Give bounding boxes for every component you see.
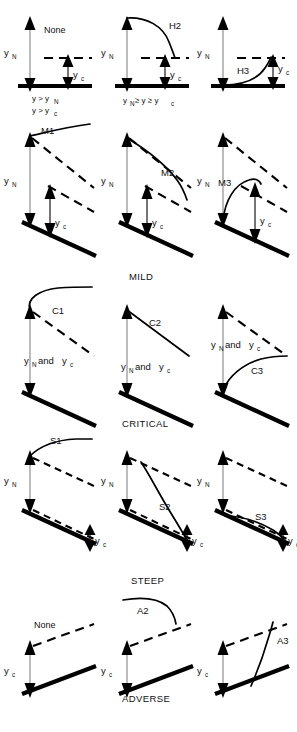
panel-c2: y N and y c C2 <box>97 282 197 414</box>
panel-h2: y N y c H2 y N ≥ y ≥ y c <box>97 0 197 122</box>
label-yc-sub-h2: c <box>178 75 181 82</box>
section-label-steep: STEEP <box>131 575 164 586</box>
label-yN-sub-s1: N <box>12 481 17 488</box>
section-label-adverse: ADVERSE <box>122 693 170 704</box>
panel-c1: y N and y c C1 <box>0 282 100 414</box>
label-yc-h3: y <box>278 63 283 74</box>
profile-label-s1: S1 <box>50 435 62 446</box>
label-yN-m1: y <box>4 175 9 186</box>
inequality-h2-sub2: c <box>171 100 174 107</box>
label-yc-sub-m3: c <box>268 221 271 228</box>
label-yc-sub-c1: c <box>70 361 73 368</box>
panel-m3: y N y c M3 <box>193 122 297 264</box>
label-yN-h2: y <box>101 47 106 58</box>
profile-label-c1: C1 <box>52 305 64 316</box>
profile-curve-a2 <box>123 598 176 624</box>
panel-s2: y N S2 y c <box>97 428 197 568</box>
label-yN-m3: y <box>197 175 202 186</box>
profile-label-s3: S3 <box>255 511 267 522</box>
label-yNc-sub1-c3: N <box>219 345 224 352</box>
panel-s1: y N S1 y c <box>0 428 100 568</box>
section-label-adverse-wrap: ADVERSE <box>122 690 196 710</box>
panel-a1: y c None <box>0 592 100 717</box>
label-yc-c3: y <box>249 339 254 350</box>
profile-label-c3: C3 <box>251 365 263 376</box>
panel-h3: y N y c H3 <box>193 0 297 122</box>
label-yc-sub-m2: c <box>160 223 163 230</box>
label-yN-sub-m1: N <box>12 181 17 188</box>
label-yNc-c2: y <box>121 361 126 372</box>
inequality-h1-line2-sub: c <box>54 110 57 117</box>
label-yN-h1: y <box>4 47 9 58</box>
inequality-h2-rest: ≥ y ≥ y <box>135 96 158 105</box>
profile-label-h1: None <box>44 25 66 35</box>
panel-s3: y N S3 y c <box>193 428 297 568</box>
panel-m2: y N y c M2 <box>97 122 197 264</box>
label-yN-s3: y <box>197 475 202 486</box>
panel-m1: y N y c M1 <box>0 122 100 264</box>
label-yc-sub-h1: c <box>81 75 84 82</box>
profile-label-h3: H3 <box>237 65 249 76</box>
label-yc-a1: y <box>4 665 9 676</box>
label-yNc-c3: y <box>211 339 216 350</box>
label-yc-h1: y <box>73 69 78 80</box>
label-yc-sub-a1: c <box>12 671 15 678</box>
label-yc-sub-m1: c <box>63 223 66 230</box>
profile-curve-h2 <box>127 18 175 58</box>
label-and-c3: and <box>225 339 241 350</box>
label-yN-s2: y <box>101 475 106 486</box>
label-yN-m2: y <box>101 175 106 186</box>
label-yc-m3: y <box>260 215 265 226</box>
label-yN-sub-s3: N <box>205 481 210 488</box>
label-yc-h2: y <box>170 69 175 80</box>
inequality-h1-line1-sub: N <box>54 98 59 105</box>
profile-label-s2: S2 <box>159 501 171 512</box>
label-yN-sub-m2: N <box>109 181 114 188</box>
label-and-c1: and <box>38 355 54 366</box>
profile-label-m3: M3 <box>218 177 231 188</box>
section-label-steep-wrap: STEEP <box>131 572 191 592</box>
profile-curve-m1 <box>30 124 90 136</box>
label-yN-sub-h3: N <box>205 53 210 60</box>
label-and-c2: and <box>135 361 151 372</box>
profile-label-a2: A2 <box>137 605 149 616</box>
profile-label-c2: C2 <box>149 317 161 328</box>
label-yN-sub-s2: N <box>109 481 114 488</box>
label-yc-m1: y <box>55 217 60 228</box>
profile-label-m2: M2 <box>161 167 174 178</box>
label-yc-c1: y <box>62 355 67 366</box>
label-yN-sub-h1: N <box>12 53 17 60</box>
label-yc-m2: y <box>152 217 157 228</box>
section-label-mild: MILD <box>129 271 153 282</box>
label-yc-sub-a2: c <box>109 671 112 678</box>
label-yc-sub-h3: c <box>286 69 289 76</box>
label-yc-c2: y <box>159 361 164 372</box>
label-yNc-c1: y <box>24 355 29 366</box>
label-yc-a2: y <box>101 665 106 676</box>
label-yN-sub-m3: N <box>205 181 210 188</box>
inequality-h1-line1: y > y <box>32 94 49 103</box>
label-yNc-sub1-c2: N <box>129 367 134 374</box>
figure-canvas: y N y c None y > y N y > y c y N y c H2 … <box>0 0 297 732</box>
panel-h1: y N y c None y > y N y > y c <box>0 0 100 122</box>
label-yc-sub-c3: c <box>257 345 260 352</box>
profile-label-m1: M1 <box>41 125 54 136</box>
label-yN-s1: y <box>4 475 9 486</box>
panel-c3: y N and y c C3 <box>193 282 297 414</box>
label-yc-sub-c2: c <box>167 367 170 374</box>
label-yN-h3: y <box>197 47 202 58</box>
label-yc-a3: y <box>197 665 202 676</box>
label-yNc-sub1-c1: N <box>32 361 37 368</box>
profile-curve-m2 <box>127 138 187 200</box>
inequality-h1-line2: y > y <box>32 106 49 115</box>
inequality-h2: y <box>123 96 127 105</box>
profile-label-h2: H2 <box>169 20 181 31</box>
label-yN-sub-h2: N <box>109 53 114 60</box>
profile-label-a1: None <box>34 620 56 630</box>
label-yc-sub-a3: c <box>205 671 208 678</box>
label-yc-sub-s3: c <box>296 541 297 548</box>
panel-a3: y c A3 <box>193 592 297 717</box>
label-yc-s3: y <box>288 535 293 546</box>
profile-label-a3: A3 <box>277 635 289 646</box>
